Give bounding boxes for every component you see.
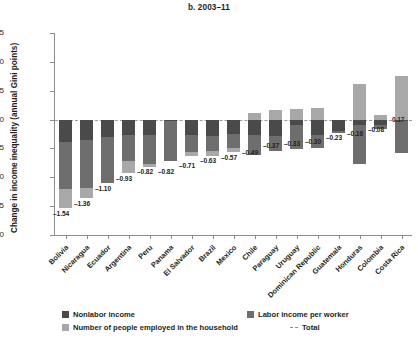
bar-column[interactable]	[311, 33, 324, 235]
bar-value-label: –1.10	[95, 185, 111, 192]
bar-column[interactable]	[122, 33, 135, 235]
y-axis-title: Change in income inequality (annual Gini…	[10, 43, 19, 233]
bar-segment	[227, 148, 240, 152]
bar-segment	[185, 152, 198, 156]
y-tick-label: –1.5	[0, 201, 4, 210]
bar-segment	[164, 121, 177, 161]
bar-segment	[206, 120, 219, 136]
legend-label-nonlabor: Nonlabor income	[73, 310, 135, 319]
x-category-label: Mexico	[214, 243, 238, 267]
bar-segment	[227, 120, 240, 134]
bar-value-label: –0.49	[242, 149, 258, 156]
bar-segment	[59, 142, 72, 189]
x-tick	[66, 235, 67, 239]
bar-segment	[374, 115, 387, 120]
x-tick	[339, 235, 340, 239]
y-axis-title-wrap: Change in income inequality (annual Gini…	[10, 38, 24, 238]
bar-column[interactable]	[269, 33, 282, 235]
legend-swatch-people-icon	[62, 324, 69, 331]
x-tick	[129, 235, 130, 239]
x-tick	[381, 235, 382, 239]
bar-value-label: –0.82	[158, 168, 174, 175]
x-tick	[213, 235, 214, 239]
bar-segment	[80, 188, 93, 198]
bar-column[interactable]	[143, 33, 156, 235]
bar-column[interactable]	[59, 33, 72, 235]
y-tick-label: 1.0	[0, 57, 4, 66]
bar-value-label: –0.33	[284, 140, 300, 147]
bar-column[interactable]	[185, 33, 198, 235]
bar-segment	[122, 135, 135, 161]
bar-segment	[395, 121, 408, 153]
bar-segment	[206, 151, 219, 156]
bar-segment	[311, 108, 324, 120]
bar-segment	[101, 120, 114, 138]
bar-segment	[185, 135, 198, 152]
bar-segment	[248, 120, 261, 135]
bar-segment	[332, 131, 345, 133]
bar-segment	[143, 135, 156, 164]
bar-value-label: –0.82	[137, 168, 153, 175]
bar-segment	[353, 84, 366, 119]
x-tick	[234, 235, 235, 239]
bar-column[interactable]	[206, 33, 219, 235]
x-tick	[276, 235, 277, 239]
legend-swatch-labor-icon	[247, 311, 254, 318]
legend-item-labor: Labor income per worker	[247, 310, 349, 319]
bar-group: –1.54–1.36–1.10–0.93–0.82–0.82–0.71–0.63…	[55, 33, 412, 235]
bar-segment	[332, 120, 345, 131]
legend-item-people: Number of people employed in the househo…	[62, 323, 238, 332]
bar-column[interactable]	[101, 33, 114, 235]
bar-segment	[227, 134, 240, 148]
legend-row-2: Number of people employed in the househo…	[62, 323, 412, 335]
chart-root: b. 2003–11 Change in income inequality (…	[0, 0, 418, 349]
bar-value-label: –0.30	[305, 138, 321, 145]
x-tick	[87, 235, 88, 239]
plot-area: 1.51.00.50–0.5–1.0–1.5–2.0 –1.54–1.36–1.…	[55, 33, 412, 235]
bar-value-label: –0.71	[179, 162, 195, 169]
x-tick	[318, 235, 319, 239]
bar-segment	[122, 120, 135, 135]
bar-value-label: –1.54	[53, 210, 69, 217]
legend-row-1: Nonlabor income Labor income per worker	[62, 310, 412, 322]
bar-value-label: –0.16	[347, 130, 363, 137]
bar-segment	[59, 120, 72, 143]
legend-item-nonlabor: Nonlabor income	[62, 310, 135, 319]
bar-segment	[59, 189, 72, 208]
legend-swatch-nonlabor-icon	[62, 311, 69, 318]
bar-segment	[290, 109, 303, 119]
bar-value-label: 0.17	[392, 116, 404, 123]
x-tick	[402, 235, 403, 239]
bar-segment	[395, 76, 408, 119]
bar-value-label: –0.93	[116, 175, 132, 182]
bar-value-label: –0.23	[326, 134, 342, 141]
bar-value-label: –1.36	[74, 200, 90, 207]
x-tick	[150, 235, 151, 239]
bar-segment	[206, 136, 219, 151]
x-tick	[255, 235, 256, 239]
legend-label-people: Number of people employed in the househo…	[73, 323, 238, 332]
bar-segment	[80, 120, 93, 141]
legend-label-labor: Labor income per worker	[258, 310, 349, 319]
legend-label-total: Total	[302, 323, 320, 332]
bar-value-label: –0.37	[263, 142, 279, 149]
x-category-label: Peru	[136, 243, 154, 261]
legend-item-total: Total	[290, 323, 320, 332]
bar-column[interactable]	[227, 33, 240, 235]
bar-column[interactable]	[374, 33, 387, 235]
bar-value-label: –0.57	[221, 154, 237, 161]
bar-column[interactable]	[290, 33, 303, 235]
bar-segment	[269, 110, 282, 120]
bar-column[interactable]	[248, 33, 261, 235]
bar-segment	[122, 161, 135, 174]
bar-segment	[269, 120, 282, 137]
bar-segment	[80, 140, 93, 187]
y-tick-label: –1.0	[0, 172, 4, 181]
y-tick-label: –2.0	[0, 230, 4, 239]
y-tick-label: 1.5	[0, 28, 4, 37]
bar-column[interactable]	[164, 33, 177, 235]
bar-segment	[248, 113, 261, 120]
y-tick	[50, 235, 55, 236]
y-tick-label: 0	[0, 115, 4, 124]
bar-column[interactable]	[395, 33, 408, 235]
